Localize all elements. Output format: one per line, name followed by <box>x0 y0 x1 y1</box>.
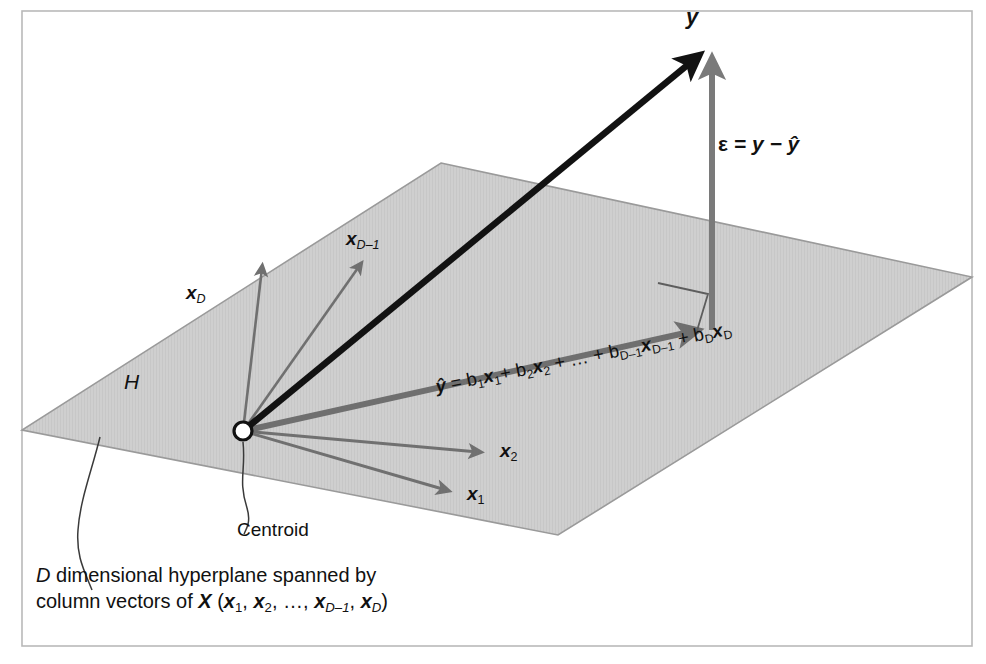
label-vector-y: y <box>686 6 698 28</box>
caption-xDm1: xD–1 <box>314 590 349 612</box>
caption-line1-rest: dimensional hyperplane spanned by <box>50 564 376 586</box>
caption-xD: xD <box>361 590 382 612</box>
plus-glyph-4: + <box>676 326 691 349</box>
x-Dm1-base: x <box>346 228 357 249</box>
figure-caption: D dimensional hyperplane spanned by colu… <box>36 562 556 615</box>
regression-geometry-figure: y ε = y − ŷ xD xD–1 x2 x1 H Centroid ŷ =… <box>0 0 986 664</box>
x-1-base: x <box>467 483 478 504</box>
x-2-subscript: 2 <box>511 450 518 464</box>
plus-glyph-3: + <box>591 343 606 366</box>
caption-X: X <box>198 590 211 612</box>
caption-close-paren: ) <box>381 590 388 612</box>
x-D-subscript: D <box>197 292 206 306</box>
caption-ellipsis: … <box>283 590 303 612</box>
caption-sep-4: , <box>350 590 361 612</box>
caption-open-paren: ( <box>212 590 224 612</box>
label-vector-x-1: x1 <box>467 484 485 503</box>
caption-line2-lead: column vectors of <box>36 590 198 612</box>
centroid-point <box>234 422 252 440</box>
caption-x2: x2 <box>253 590 271 612</box>
caption-x1: x1 <box>224 590 242 612</box>
x-D-base: x <box>186 282 197 303</box>
label-vector-x-D: xD <box>186 283 206 302</box>
caption-D: D <box>36 564 50 586</box>
x-1-subscript: 1 <box>478 493 485 507</box>
x-Dm1-subscript: D–1 <box>357 238 380 252</box>
label-hyperplane-h: H <box>124 371 139 392</box>
label-centroid: Centroid <box>237 520 309 539</box>
caption-sep-1: , <box>242 590 253 612</box>
label-vector-x-D-minus-1: xD–1 <box>346 229 380 248</box>
plus-glyph-2: + <box>552 350 567 373</box>
label-epsilon-equation: ε = y − ŷ <box>718 133 799 154</box>
x-2-base: x <box>500 440 511 461</box>
caption-sep-3: , <box>303 590 314 612</box>
epsilon-symbol: ε <box>718 132 728 155</box>
epsilon-equation-rest: = y − ŷ <box>728 132 799 155</box>
caption-sep-2: , <box>272 590 283 612</box>
label-vector-x-2: x2 <box>500 441 518 460</box>
